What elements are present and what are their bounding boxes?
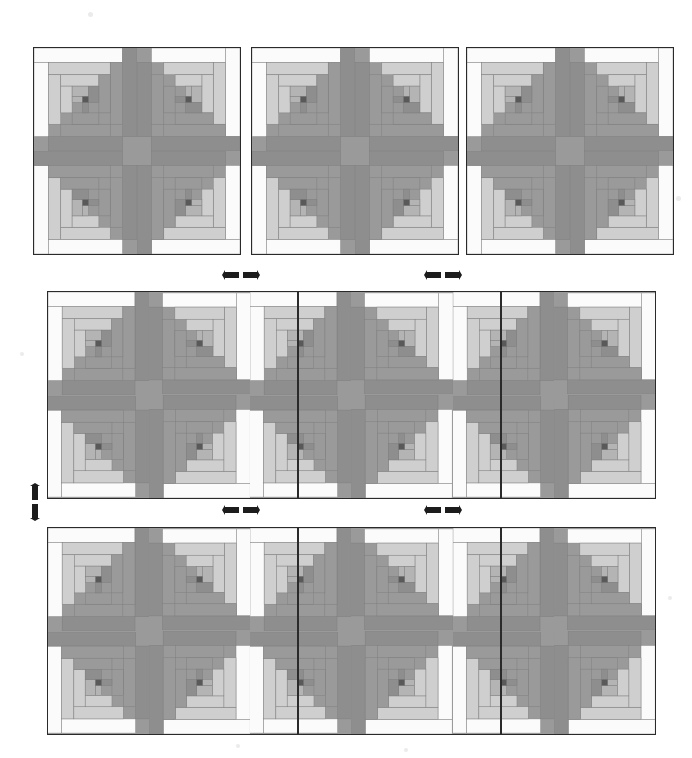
arrow-join-bottom-left — [222, 503, 260, 517]
bottom-panel — [47, 527, 656, 735]
log-cabin-block — [453, 395, 554, 498]
log-cabin-block — [355, 151, 458, 254]
arrow-join-middle-left — [222, 268, 260, 282]
log-cabin-block — [250, 292, 351, 395]
log-cabin-block — [467, 151, 570, 254]
panel-seam-line — [297, 527, 299, 735]
log-cabin-block — [48, 631, 149, 734]
middle-panel — [47, 291, 656, 499]
log-cabin-block — [554, 528, 655, 631]
log-cabin-block — [149, 292, 250, 395]
log-cabin-block — [351, 395, 452, 498]
arrow-join-middle-right — [424, 268, 462, 282]
log-cabin-block — [250, 631, 351, 734]
top-panel-2 — [251, 47, 459, 255]
scan-speck — [668, 596, 672, 600]
log-cabin-block — [467, 48, 570, 151]
panel-seam-line — [500, 527, 502, 735]
quilt-diagram-canvas — [0, 0, 692, 758]
log-cabin-block — [34, 48, 137, 151]
log-cabin-block — [149, 528, 250, 631]
log-cabin-block — [48, 292, 149, 395]
log-cabin-block — [453, 528, 554, 631]
scan-speck — [676, 196, 681, 201]
panel-seam-line — [297, 291, 299, 499]
log-cabin-block — [453, 292, 554, 395]
log-cabin-block — [570, 48, 673, 151]
log-cabin-block — [351, 528, 452, 631]
log-cabin-block — [250, 395, 351, 498]
log-cabin-block — [570, 151, 673, 254]
arrow-join-bottom-right — [424, 503, 462, 517]
log-cabin-block — [250, 528, 351, 631]
log-cabin-block — [48, 528, 149, 631]
log-cabin-block — [351, 292, 452, 395]
scan-speck — [404, 748, 408, 752]
top-panel-1 — [33, 47, 241, 255]
log-cabin-block — [137, 151, 240, 254]
log-cabin-block — [149, 631, 250, 734]
log-cabin-block — [48, 395, 149, 498]
arrow-join-rows — [28, 483, 42, 521]
log-cabin-block — [252, 151, 355, 254]
log-cabin-block — [355, 48, 458, 151]
log-cabin-block — [252, 48, 355, 151]
log-cabin-block — [453, 631, 554, 734]
scan-speck — [88, 12, 93, 17]
log-cabin-block — [149, 395, 250, 498]
scan-speck — [20, 352, 24, 356]
log-cabin-block — [554, 395, 655, 498]
top-panel-3 — [466, 47, 674, 255]
log-cabin-block — [34, 151, 137, 254]
log-cabin-block — [554, 292, 655, 395]
panel-seam-line — [500, 291, 502, 499]
log-cabin-block — [554, 631, 655, 734]
scan-speck — [236, 744, 240, 748]
log-cabin-block — [137, 48, 240, 151]
log-cabin-block — [351, 631, 452, 734]
